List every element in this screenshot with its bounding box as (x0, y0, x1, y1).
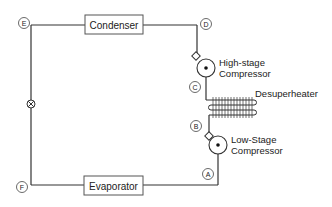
svg-text:C: C (192, 84, 197, 91)
state-point-a: A (203, 169, 214, 180)
svg-text:B: B (194, 123, 199, 130)
high-stage-compressor-label: High-stage Compressor (219, 57, 271, 79)
state-point-c: C (190, 82, 201, 93)
refrigeration-cycle-diagram: Condenser Evaporator High-stage Compress… (0, 0, 332, 207)
low-stage-compressor-icon (205, 132, 227, 154)
evaporator-label: Evaporator (89, 181, 139, 192)
state-point-b: B (191, 121, 202, 132)
condenser-box: Condenser (85, 15, 143, 34)
svg-text:E: E (22, 20, 27, 27)
desuperheater-coil-icon (206, 97, 257, 118)
condenser-label: Condenser (90, 20, 140, 31)
svg-text:F: F (20, 184, 24, 191)
high-stage-compressor-icon (192, 52, 215, 77)
evaporator-box: Evaporator (84, 176, 143, 195)
state-point-d: D (201, 19, 212, 30)
svg-text:D: D (203, 21, 208, 28)
expansion-valve-icon (27, 100, 35, 108)
desuperheater-label: Desuperheater (255, 88, 318, 99)
svg-text:A: A (206, 171, 211, 178)
low-stage-compressor-label: Low-Stage Compressor (231, 134, 283, 156)
state-point-f: F (17, 182, 28, 193)
state-point-e: E (19, 18, 30, 29)
